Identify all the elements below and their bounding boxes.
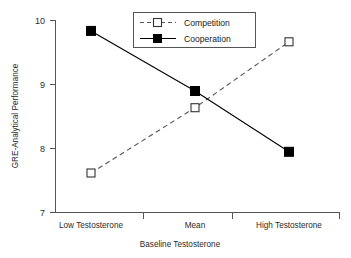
y-tick-label-9: 9 [40,80,45,90]
line-chart-canvas: 7 8 9 10 GRE-Analytical Performance Low … [0,0,351,258]
x-axis-title: Baseline Testosterone [140,240,221,249]
data-point-marker [191,87,200,96]
data-point-marker [191,104,199,112]
data-point-marker [285,147,294,156]
y-tick-label-8: 8 [40,144,45,154]
legend-marker-cooperation [154,35,162,43]
y-tick-label-7: 7 [40,208,45,218]
series-line-competition [91,42,289,173]
legend-label-cooperation: Cooperation [184,34,231,44]
data-point-marker [87,169,95,177]
legend-marker-competition [154,19,162,27]
chart-figure: 7 8 9 10 GRE-Analytical Performance Low … [0,0,351,258]
series-markers-competition [87,38,293,177]
x-category-label-low: Low Testosterone [59,221,123,230]
legend-label-competition: Competition [184,18,230,28]
y-axis-title: GRE-Analytical Performance [11,63,20,168]
x-category-label-mean: Mean [185,221,206,230]
data-point-marker [285,38,293,46]
chart-legend: Competition Cooperation [134,13,256,48]
data-point-marker [87,26,96,35]
x-category-label-high: High Testosterone [256,221,322,230]
y-tick-label-10: 10 [35,16,45,26]
